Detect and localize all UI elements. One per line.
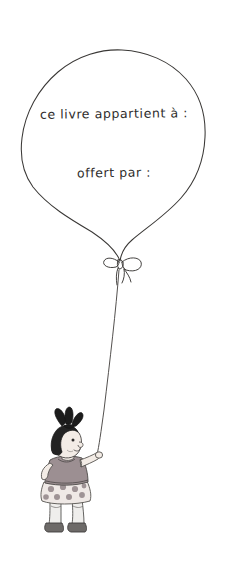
balloon-text-owner: ce livre appartient à : — [0, 105, 228, 122]
bookplate-illustration: ce livre appartient à : offert par : — [0, 0, 228, 584]
balloon-string — [97, 270, 119, 455]
girl-figure — [41, 407, 103, 532]
balloon-outline — [21, 50, 205, 261]
girl-hair-bow — [55, 407, 83, 428]
balloon-bow — [104, 258, 142, 285]
balloon-text-giver: offert par : — [0, 164, 228, 181]
illustration-canvas — [0, 0, 228, 584]
